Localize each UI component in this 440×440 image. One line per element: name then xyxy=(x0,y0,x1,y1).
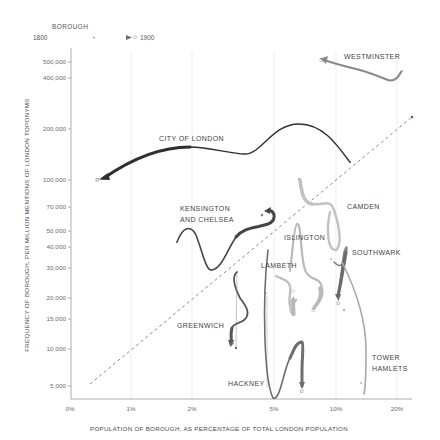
label-lambeth: LAMBETH xyxy=(261,262,297,269)
reference-end-dot xyxy=(411,116,413,118)
series-greenwich[interactable] xyxy=(228,272,248,349)
label-city-of-london: CITY OF LONDON xyxy=(159,135,224,142)
legend-title: BOROUGH xyxy=(52,23,88,30)
x-axis-title: POPULATION OF BOROUGH, AS PERCENTAGE OF … xyxy=(90,425,348,432)
y-tick: 100,000 xyxy=(43,176,67,183)
x-tick: 10% xyxy=(330,405,343,412)
x-tick: 0% xyxy=(65,405,75,412)
x-tick: 5% xyxy=(269,405,279,412)
y-tick: 20,000 xyxy=(46,294,66,301)
y-tick: 40,000 xyxy=(46,243,66,250)
legend-arrow-icon xyxy=(126,35,132,40)
legend-start-dot xyxy=(93,37,95,39)
y-tick: 70,000 xyxy=(46,203,66,210)
legend-end-year: 1900 xyxy=(140,34,155,41)
x-tick: 2% xyxy=(187,405,197,412)
series-city-of-london[interactable] xyxy=(96,124,351,181)
legend: BOROUGH 1800 1900 xyxy=(33,23,155,41)
y-tick: 15,000 xyxy=(46,315,66,322)
label-camden: CAMDEN xyxy=(347,203,380,210)
series-tower-hamlets[interactable] xyxy=(342,262,366,394)
x-tick-labels: 0% 1% 2% 5% 10% 20% xyxy=(65,405,403,412)
y-tick: 400,000 xyxy=(43,74,67,81)
y-tick: 500,000 xyxy=(43,58,67,65)
y-tick: 50,000 xyxy=(46,227,66,234)
series-lambeth[interactable] xyxy=(265,276,297,388)
series-hackney[interactable] xyxy=(265,250,305,398)
x-tick: 20% xyxy=(391,405,404,412)
label-hackney: HACKNEY xyxy=(228,380,265,387)
label-and-chelsea: AND CHELSEA xyxy=(180,216,234,223)
label-southwark: SOUTHWARK xyxy=(352,249,401,256)
y-axis-title: FREQUENCY OF BOROUGH, PER MILLION MENTIO… xyxy=(23,98,30,351)
y-tick: 10,000 xyxy=(46,345,66,352)
legend-start-year: 1800 xyxy=(33,34,48,41)
series-southwark[interactable] xyxy=(330,247,347,305)
y-tick-labels: 500,000 400,000 200,000 100,000 70,000 5… xyxy=(43,58,67,389)
y-tick: 5,000 xyxy=(50,382,66,389)
label-islington: ISLINGTON xyxy=(284,234,325,241)
legend-end-square xyxy=(134,36,137,39)
y-tick: 200,000 xyxy=(43,125,67,132)
label-westminster: WESTMINSTER xyxy=(344,53,400,60)
borough-labels: WESTMINSTER CITY OF LONDON KENSINGTON AN… xyxy=(159,53,408,387)
axes xyxy=(68,48,412,399)
x-tick: 1% xyxy=(126,405,136,412)
label-greenwich: GREENWICH xyxy=(177,322,224,329)
chart-canvas: BOROUGH 1800 1900 500,000 400,000 2 xyxy=(0,0,440,440)
label-kensington: KENSINGTON xyxy=(180,205,230,212)
label-tower: TOWER xyxy=(372,354,400,361)
label-hamlets: HAMLETS xyxy=(372,365,408,372)
y-tick: 30,000 xyxy=(46,264,66,271)
